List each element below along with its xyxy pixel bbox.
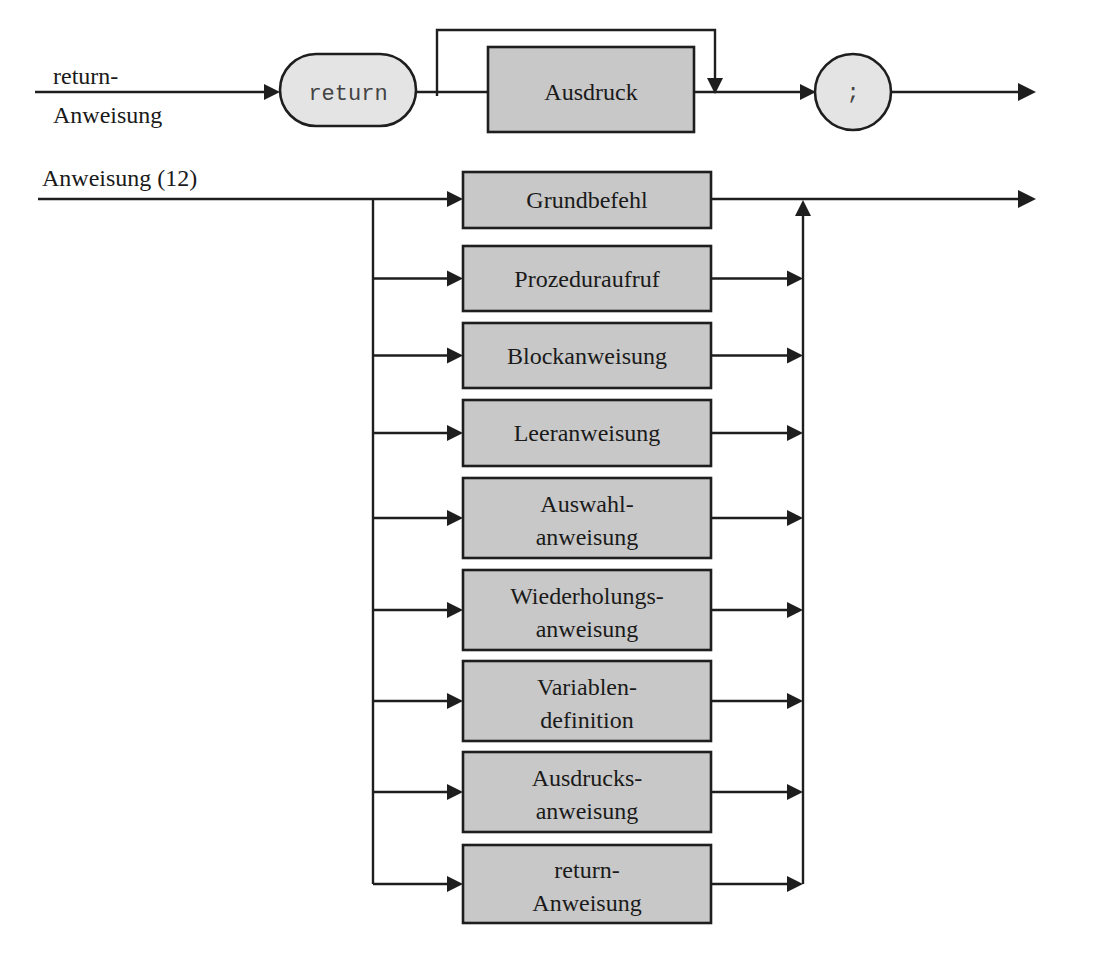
arrow-icon bbox=[787, 510, 803, 526]
alternative: Auswahl-anweisung bbox=[373, 478, 803, 558]
arrow-icon bbox=[1018, 190, 1036, 208]
nonterminal-label-line2: anweisung bbox=[536, 616, 639, 642]
arrow-icon bbox=[787, 602, 803, 618]
arrow-icon bbox=[787, 348, 803, 364]
arrow-icon bbox=[264, 84, 280, 100]
alternative: Prozeduraufruf bbox=[373, 246, 803, 311]
alternative: Variablen-definition bbox=[373, 661, 803, 741]
nonterminal-label-line1: Auswahl- bbox=[540, 491, 633, 517]
nonterminal-label: Blockanweisung bbox=[507, 343, 667, 369]
arrow-icon bbox=[787, 876, 803, 892]
arrow-icon bbox=[795, 200, 811, 216]
alternative: Grundbefehl bbox=[447, 172, 803, 228]
arrow-icon bbox=[787, 271, 803, 287]
nonterminal-label-line2: anweisung bbox=[536, 524, 639, 550]
arrow-icon bbox=[1018, 83, 1036, 101]
alternative: Wiederholungs-anweisung bbox=[373, 570, 803, 650]
nonterminal-label-line1: Wiederholungs- bbox=[510, 583, 664, 609]
arrow-icon bbox=[447, 271, 463, 287]
arrow-icon bbox=[447, 876, 463, 892]
arrow-icon bbox=[447, 693, 463, 709]
arrow-icon bbox=[447, 510, 463, 526]
alternative: return-Anweisung bbox=[373, 845, 803, 923]
nonterminal-label-line1: return- bbox=[554, 857, 619, 883]
nonterminal-label-line1: Variablen- bbox=[537, 674, 637, 700]
nonterminal-label: Prozeduraufruf bbox=[514, 266, 659, 292]
arrow-icon bbox=[447, 191, 463, 207]
rule-name-return-line2: Anweisung bbox=[53, 102, 162, 128]
arrow-icon bbox=[787, 693, 803, 709]
arrow-icon bbox=[787, 425, 803, 441]
arrow-icon bbox=[447, 348, 463, 364]
alternative: Leeranweisung bbox=[373, 400, 803, 466]
nonterminal-label: Grundbefehl bbox=[526, 187, 648, 213]
statement-rule: Anweisung (12) GrundbefehlProzeduraufruf… bbox=[38, 165, 1036, 923]
arrow-icon bbox=[800, 84, 816, 100]
syntax-diagram: return- Anweisung return Ausdruck ; Anwe… bbox=[0, 0, 1099, 958]
alternative: Blockanweisung bbox=[373, 323, 803, 388]
nonterminal-label-line2: definition bbox=[540, 707, 633, 733]
terminal-semicolon-label: ; bbox=[846, 81, 859, 106]
arrow-icon bbox=[447, 602, 463, 618]
arrow-icon bbox=[447, 784, 463, 800]
arrow-icon bbox=[787, 784, 803, 800]
nonterminal-ausdruck-label: Ausdruck bbox=[544, 79, 637, 105]
nonterminal-label: Leeranweisung bbox=[514, 420, 661, 446]
return-rule: return- Anweisung return Ausdruck ; bbox=[35, 30, 1036, 132]
rule-name-statement: Anweisung (12) bbox=[42, 165, 197, 191]
nonterminal-label-line1: Ausdrucks- bbox=[532, 765, 643, 791]
nonterminal-label-line2: Anweisung bbox=[532, 890, 641, 916]
arrow-icon bbox=[447, 425, 463, 441]
alternative: Ausdrucks-anweisung bbox=[373, 752, 803, 832]
nonterminal-label-line2: anweisung bbox=[536, 798, 639, 824]
terminal-return-label: return bbox=[308, 82, 387, 107]
rule-name-return-line1: return- bbox=[53, 63, 118, 89]
